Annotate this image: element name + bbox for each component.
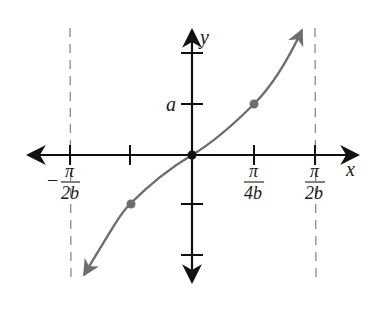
svg-text:−: −	[47, 169, 58, 191]
svg-text:2b: 2b	[305, 183, 323, 203]
svg-text:4b: 4b	[244, 183, 262, 203]
point-positive	[250, 100, 259, 109]
svg-text:π: π	[249, 161, 259, 181]
y-tick-label-a: a	[166, 93, 176, 115]
x-axis-label: x	[345, 158, 355, 180]
svg-text:2b: 2b	[61, 183, 79, 203]
x-tick-label-neg-pi-over-2b: − π 2b	[47, 161, 80, 203]
point-origin	[188, 151, 197, 160]
point-negative	[127, 200, 136, 209]
tangent-graph: x y a − π 2b π 4b π 2b	[0, 0, 381, 309]
y-axis-label: y	[198, 26, 209, 49]
x-tick-label-pi-over-4b: π 4b	[244, 161, 264, 203]
svg-text:π: π	[310, 161, 320, 181]
x-tick-label-pi-over-2b: π 2b	[305, 161, 325, 203]
graph-canvas: x y a − π 2b π 4b π 2b	[0, 0, 381, 309]
svg-text:π: π	[65, 161, 75, 181]
